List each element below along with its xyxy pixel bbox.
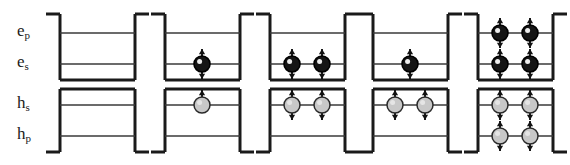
filled-s-and-p-shells-hole-highlight [525, 100, 530, 105]
filled-s-and-p-shells-spin-head [497, 90, 503, 95]
positive-trion-spin-head [407, 49, 413, 54]
single-exciton-electron-highlight [197, 59, 202, 64]
filled-s-and-p-shells-electron [522, 25, 538, 41]
biexciton-spin-head [289, 49, 295, 54]
filled-s-and-p-shells-hole [492, 97, 508, 113]
biexciton-electron [314, 56, 330, 72]
positive-trion-hole [387, 97, 403, 113]
biexciton-spin-head [319, 115, 325, 120]
filled-s-and-p-shells-hole [522, 97, 538, 113]
diagram-canvas [0, 0, 570, 165]
filled-s-and-p-shells-spin-head [527, 74, 533, 79]
panel-1-empty-dot [46, 14, 149, 152]
panel-2-single-exciton [151, 14, 254, 152]
filled-s-and-p-shells-spin-head [527, 43, 533, 48]
biexciton-spin-head [319, 90, 325, 95]
positive-trion-spin-head [422, 115, 428, 120]
filled-s-and-p-shells-spin-head [497, 146, 503, 151]
filled-s-and-p-shells-electron-highlight [495, 59, 500, 64]
biexciton-hole-highlight [317, 100, 322, 105]
panel-3-biexciton [256, 14, 359, 152]
biexciton-hole [284, 97, 300, 113]
biexciton-spin-head [319, 74, 325, 79]
positive-trion-hole [417, 97, 433, 113]
filled-s-and-p-shells-spin-head [527, 115, 533, 120]
single-exciton-electron [194, 56, 210, 72]
single-exciton-hole [194, 97, 210, 113]
filled-s-and-p-shells-spin-head [527, 49, 533, 54]
filled-s-and-p-shells-spin-head [527, 146, 533, 151]
filled-s-and-p-shells-spin-head [527, 121, 533, 126]
filled-s-and-p-shells-spin-head [497, 121, 503, 126]
biexciton-hole-highlight [287, 100, 292, 105]
positive-trion-spin-head [407, 74, 413, 79]
positive-trion-spin-head [392, 90, 398, 95]
filled-s-and-p-shells-spin-head [527, 90, 533, 95]
biexciton-spin-head [319, 49, 325, 54]
filled-s-and-p-shells-electron-highlight [525, 59, 530, 64]
filled-s-and-p-shells-hole-highlight [495, 131, 500, 136]
positive-trion-hole-highlight [390, 100, 395, 105]
filled-s-and-p-shells-hole-highlight [525, 131, 530, 136]
single-exciton-spin-head [199, 74, 205, 79]
single-exciton-spin-head [199, 90, 205, 95]
filled-s-and-p-shells-spin-head [497, 49, 503, 54]
biexciton-spin-head [289, 74, 295, 79]
positive-trion-spin-head [422, 90, 428, 95]
filled-s-and-p-shells-electron [492, 56, 508, 72]
filled-s-and-p-shells-spin-head [497, 115, 503, 120]
filled-s-and-p-shells-spin-head [497, 18, 503, 23]
filled-s-and-p-shells-electron-highlight [525, 28, 530, 33]
positive-trion-electron-highlight [405, 59, 410, 64]
biexciton-electron-highlight [287, 59, 292, 64]
biexciton-spin-head [289, 90, 295, 95]
panel-4-positive-trion [359, 14, 462, 152]
single-exciton-hole-highlight [197, 100, 202, 105]
filled-s-and-p-shells-spin-head [497, 74, 503, 79]
filled-s-and-p-shells-hole [492, 128, 508, 144]
biexciton-electron-highlight [317, 59, 322, 64]
biexciton-hole [314, 97, 330, 113]
filled-s-and-p-shells-electron [492, 25, 508, 41]
panel-5-filled-s-and-p-shells [464, 14, 567, 152]
filled-s-and-p-shells-electron-highlight [495, 28, 500, 33]
single-exciton-spin-head [199, 49, 205, 54]
filled-s-and-p-shells-electron [522, 56, 538, 72]
filled-s-and-p-shells-spin-head [527, 18, 533, 23]
filled-s-and-p-shells-hole-highlight [495, 100, 500, 105]
biexciton-electron [284, 56, 300, 72]
filled-s-and-p-shells-hole [522, 128, 538, 144]
positive-trion-hole-highlight [420, 100, 425, 105]
positive-trion-electron [402, 56, 418, 72]
biexciton-spin-head [289, 115, 295, 120]
filled-s-and-p-shells-spin-head [497, 43, 503, 48]
quantum-dot-shell-diagram: ep es hs hp [0, 0, 570, 165]
positive-trion-spin-head [392, 115, 398, 120]
